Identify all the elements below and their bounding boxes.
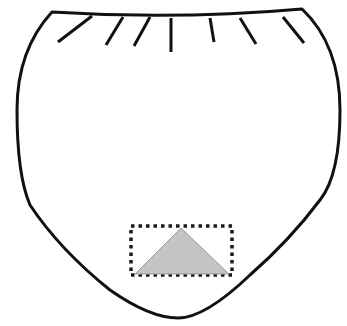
pouch-diagram [0,0,347,326]
